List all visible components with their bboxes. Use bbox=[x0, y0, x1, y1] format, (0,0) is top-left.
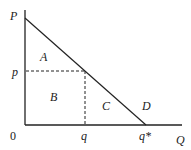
region-c-label: C bbox=[102, 99, 111, 113]
region-a-label: A bbox=[39, 50, 48, 64]
region-b-label: B bbox=[50, 90, 58, 104]
region-d-label: D bbox=[141, 99, 151, 113]
y-axis-label: P bbox=[9, 9, 18, 23]
quantity-tick-label: q bbox=[81, 129, 87, 143]
origin-label: 0 bbox=[10, 129, 16, 143]
demand-diagram: P Q 0 p q q* A B C D bbox=[0, 0, 191, 150]
quantity-star-tick-label: q* bbox=[139, 129, 151, 143]
price-tick-label: p bbox=[11, 65, 18, 79]
x-axis-label: Q bbox=[176, 133, 185, 147]
